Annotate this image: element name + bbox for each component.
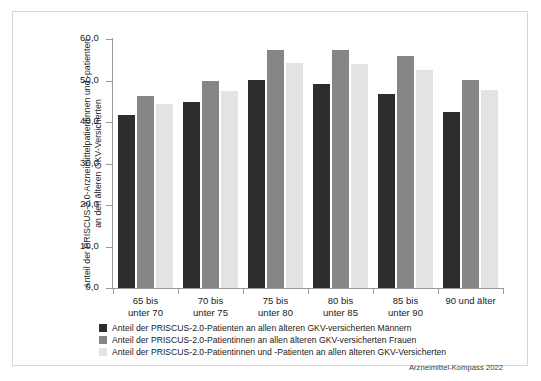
y-axis-tick: 40,0 (106, 122, 112, 123)
y-axis-tick: 50,0 (106, 81, 112, 82)
bar[interactable] (443, 112, 460, 288)
bar[interactable] (248, 80, 265, 288)
x-axis-category-label: 80 bis unter 85 (308, 295, 373, 319)
bar-group (438, 39, 503, 288)
y-axis-tick: 20,0 (106, 205, 112, 206)
y-axis-tick: 10,0 (106, 247, 112, 248)
bar[interactable] (313, 84, 330, 288)
y-axis-tick: 0,0 (106, 288, 112, 289)
y-axis-tick-label: 30,0 (80, 157, 106, 168)
bar[interactable] (267, 50, 284, 288)
legend-label: Anteil der PRISCUS-2.0-Patientinnen an a… (112, 335, 416, 345)
bar-group (243, 39, 308, 288)
bar[interactable] (481, 90, 498, 288)
bar[interactable] (221, 91, 238, 288)
y-axis-tick: 30,0 (106, 164, 112, 165)
source-attribution: Arzneimittel-Kompass 2022 (409, 363, 503, 372)
bar-group (373, 39, 438, 288)
legend-label: Anteil der PRISCUS-2.0-Patientinnen und … (112, 347, 446, 357)
figure: Anteil der PRISCUS-2.0-Arzneimittelpatie… (0, 0, 541, 381)
y-axis-tick-label: 10,0 (80, 240, 106, 251)
y-axis-tick: 60,0 (106, 39, 112, 40)
x-axis-tick (308, 289, 309, 294)
bar[interactable] (137, 96, 154, 288)
bar[interactable] (183, 102, 200, 288)
y-axis-tick-label: 50,0 (80, 74, 106, 85)
bar[interactable] (351, 64, 368, 288)
bar[interactable] (378, 94, 395, 288)
legend-label: Anteil der PRISCUS-2.0-Patienten an alle… (112, 323, 412, 333)
bar[interactable] (397, 56, 414, 288)
legend-item[interactable]: Anteil der PRISCUS-2.0-Patienten an alle… (99, 322, 519, 334)
bar[interactable] (286, 63, 303, 288)
bar-group (113, 39, 178, 288)
x-axis-tick (113, 289, 114, 294)
legend-swatch-icon (99, 348, 107, 356)
y-axis-tick-label: 0,0 (85, 281, 106, 292)
x-axis-category-label: 85 bis unter 90 (373, 295, 438, 319)
legend-swatch-icon (99, 324, 107, 332)
figure-frame: Anteil der PRISCUS-2.0-Arzneimittelpatie… (12, 11, 528, 366)
bar-group (308, 39, 373, 288)
y-axis-tick-label: 20,0 (80, 198, 106, 209)
bar[interactable] (202, 81, 219, 288)
x-axis-category-label: 75 bis unter 80 (243, 295, 308, 319)
bar[interactable] (118, 115, 135, 288)
plot-area (113, 39, 503, 288)
legend-item[interactable]: Anteil der PRISCUS-2.0-Patientinnen und … (99, 346, 519, 358)
chart-legend: Anteil der PRISCUS-2.0-Patienten an alle… (99, 322, 519, 359)
bar-group (178, 39, 243, 288)
y-axis-tick-label: 40,0 (80, 115, 106, 126)
x-axis-category-label: 65 bis unter 70 (113, 295, 178, 319)
x-axis-category-label: 90 und älter (438, 295, 503, 307)
x-axis-category-label: 70 bis unter 75 (178, 295, 243, 319)
bar[interactable] (462, 80, 479, 288)
bar[interactable] (416, 70, 433, 288)
x-axis-tick (503, 289, 504, 294)
x-axis-tick (243, 289, 244, 294)
bar[interactable] (332, 50, 349, 288)
legend-item[interactable]: Anteil der PRISCUS-2.0-Patientinnen an a… (99, 334, 519, 346)
legend-swatch-icon (99, 336, 107, 344)
x-axis-tick (373, 289, 374, 294)
y-axis-tick-label: 60,0 (80, 32, 106, 43)
bar[interactable] (156, 104, 173, 288)
x-axis-tick (438, 289, 439, 294)
x-axis-tick (178, 289, 179, 294)
